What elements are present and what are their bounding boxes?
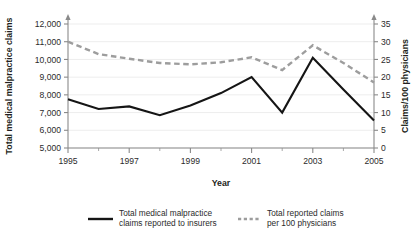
left-tick-label: 8,000: [39, 90, 61, 100]
x-tick-label: 1997: [120, 156, 139, 166]
x-tick-label: 1995: [58, 156, 77, 166]
chart-legend: Total medical malpractice claims reporte…: [88, 208, 344, 228]
right-axis-arrow: [371, 14, 376, 20]
x-tick-label: 2001: [242, 156, 261, 166]
right-tick-label: 35: [381, 19, 391, 29]
right-tick-label: 0: [381, 143, 386, 153]
x-axis-title: Year: [212, 178, 231, 188]
legend-item-0-line2: claims reported to insurers: [119, 218, 217, 228]
chart-container: 5,0006,0007,0008,0009,00010,00011,00012,…: [0, 0, 419, 240]
left-axis-arrow: [65, 14, 70, 20]
right-tick-label: 10: [381, 108, 391, 118]
x-minor-ticks: [68, 148, 374, 153]
left-tick-label: 12,000: [35, 19, 62, 29]
x-tick-label: 2003: [303, 156, 322, 166]
right-tick-label: 30: [381, 37, 391, 47]
gridlines: [68, 24, 374, 148]
left-tick-label: 6,000: [39, 125, 61, 135]
right-tick-label: 15: [381, 90, 391, 100]
left-tick-label: 7,000: [39, 108, 61, 118]
legend-item-1-line2: per 100 physicians: [267, 218, 336, 228]
x-axis-ticks: 199519971999200120032005: [58, 156, 383, 166]
dual-axis-line-chart: 5,0006,0007,0008,0009,00010,00011,00012,…: [0, 0, 419, 240]
left-tick-label: 5,000: [39, 143, 61, 153]
x-tick-label: 2005: [364, 156, 383, 166]
left-axis-ticks: 5,0006,0007,0008,0009,00010,00011,00012,…: [35, 19, 68, 153]
right-axis-ticks: 05101520253035: [374, 19, 391, 153]
left-tick-label: 10,000: [35, 55, 62, 65]
right-tick-label: 25: [381, 55, 391, 65]
series-line-malpractice-claims: [68, 58, 374, 121]
left-axis-title: Total medical malpractice claims: [4, 18, 14, 155]
left-tick-label: 9,000: [39, 72, 61, 82]
left-tick-label: 11,000: [35, 37, 61, 47]
legend-item-1-line1: Total reported claims: [267, 208, 344, 218]
right-tick-label: 20: [381, 72, 391, 82]
legend-item-0-line1: Total medical malpractice: [119, 208, 213, 218]
right-tick-label: 5: [381, 125, 386, 135]
series-line-claims-per-100-physicians: [68, 42, 374, 83]
x-tick-label: 1999: [181, 156, 200, 166]
right-axis-title: Claims/100 physicians: [400, 39, 410, 133]
